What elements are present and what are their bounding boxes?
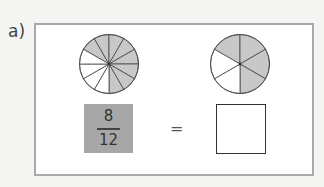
right-pie-chart-icon	[209, 33, 271, 95]
question-label: a)	[8, 21, 25, 41]
equals-sign: =	[170, 119, 183, 138]
fraction-numerator: 8	[84, 107, 133, 125]
given-fraction: 8 12	[84, 104, 133, 153]
answer-input-box[interactable]	[216, 104, 266, 154]
fraction-denominator: 12	[84, 131, 133, 149]
question-frame	[34, 23, 314, 176]
left-pie-chart-icon	[78, 33, 140, 95]
fraction-bar	[97, 128, 120, 130]
